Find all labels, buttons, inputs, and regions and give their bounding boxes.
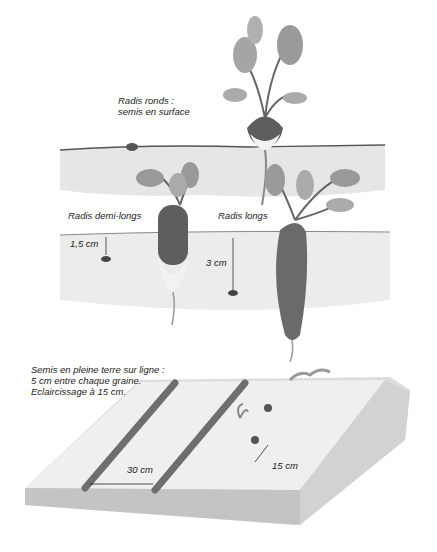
surface-soil-layer xyxy=(60,143,385,197)
label-depth-long: 3 cm xyxy=(206,257,227,268)
label-seed-spacing: 5 cm entre chaque graine. xyxy=(31,375,141,386)
label-row-sowing: Semis en pleine terre sur ligne : xyxy=(31,364,165,375)
label-half-long-radish: Radis demi-longs xyxy=(68,210,141,221)
label-thinning-spacing: 15 cm xyxy=(272,460,298,471)
deep-soil-layer xyxy=(60,231,390,310)
label-long-radish: Radis longs xyxy=(218,210,268,221)
label-round-radish-sowing: semis en surface xyxy=(118,106,190,117)
label-depth-half-long: 1,5 cm xyxy=(70,238,99,249)
label-thinning: Eclaircissage à 15 cm. xyxy=(31,386,126,397)
label-row-spacing: 30 cm xyxy=(127,464,153,475)
radish-illustration xyxy=(0,0,437,552)
label-round-radish-title: Radis ronds : xyxy=(118,95,174,106)
